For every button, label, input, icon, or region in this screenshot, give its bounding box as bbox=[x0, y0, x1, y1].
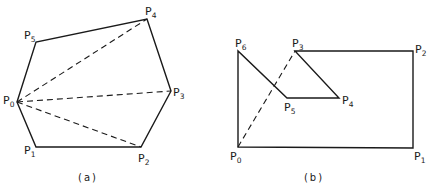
vertex-label-p0: P0 bbox=[230, 150, 242, 165]
diagonal-dashed-line bbox=[17, 19, 147, 102]
diagonal-dashed-line bbox=[17, 91, 171, 102]
polygon-outline bbox=[17, 19, 171, 147]
vertex-label-p5: P5 bbox=[284, 101, 296, 116]
diagram-svg: P0P1P2P3P4P5(a) P0P1P2P3P4P5P6(b) bbox=[0, 0, 429, 191]
diagonal-dashed-line bbox=[238, 51, 295, 147]
figure-caption-a: (a) bbox=[78, 172, 98, 183]
vertex-label-p2: P2 bbox=[138, 152, 150, 167]
vertex-label-p1: P1 bbox=[24, 144, 36, 159]
polygon-outline bbox=[238, 51, 413, 148]
polygon-triangulation-diagram: P0P1P2P3P4P5(a) P0P1P2P3P4P5P6(b) bbox=[0, 0, 429, 191]
figure-a-convex-polygon: P0P1P2P3P4P5(a) bbox=[3, 5, 185, 183]
figure-caption-b: (b) bbox=[304, 172, 324, 183]
vertex-label-p4: P4 bbox=[342, 94, 354, 109]
vertex-label-p3: P3 bbox=[173, 86, 185, 101]
diagonal-dashed-line bbox=[17, 102, 141, 147]
vertex-label-p5: P5 bbox=[24, 29, 36, 44]
vertex-label-p0: P0 bbox=[3, 94, 15, 109]
vertex-label-p2: P2 bbox=[415, 43, 427, 58]
vertex-label-p1: P1 bbox=[414, 150, 426, 165]
vertex-label-p6: P6 bbox=[235, 37, 247, 52]
vertex-label-p3: P3 bbox=[292, 37, 304, 52]
vertex-label-p4: P4 bbox=[145, 5, 157, 20]
figure-b-nonconvex-polygon: P0P1P2P3P4P5P6(b) bbox=[230, 37, 427, 183]
